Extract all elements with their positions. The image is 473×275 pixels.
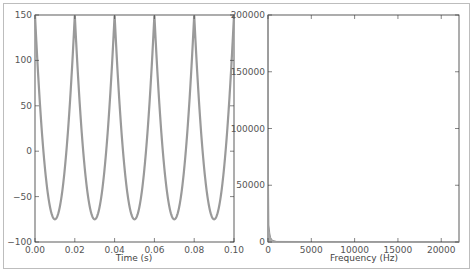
xtick-label: 0 [265,245,271,255]
figure: 150100500−50−100 0.000.020.040.060.080.1… [0,0,473,275]
ytick-label: −50 [13,192,32,202]
xtick-label: 5000 [300,245,323,255]
xtick-label: 0.10 [224,245,244,255]
time-plot: 150100500−50−100 0.000.020.040.060.080.1… [7,10,244,263]
frequency-plot: 200000150000100000500000 050001000015000… [231,10,459,263]
ytick-label: 200000 [231,10,266,20]
ytick-label: 50000 [236,180,265,190]
time-plot-xlabel: Time (s) [115,253,153,263]
xtick-label: 0.00 [25,245,45,255]
ytick-label: 100 [15,55,32,65]
xtick-label: 0.02 [65,245,85,255]
frequency-plot-axes [268,15,459,242]
ytick-label: 50 [21,101,33,111]
frequency-plot-xlabel: Frequency (Hz) [330,253,398,263]
ytick-label: 150000 [231,67,266,77]
ytick-label: 0 [26,146,32,156]
xtick-label: 20000 [427,245,456,255]
time-plot-axes [35,15,234,242]
xtick-label: 0.08 [184,245,204,255]
ytick-label: 150 [15,10,32,20]
ytick-label: 100000 [231,124,266,134]
